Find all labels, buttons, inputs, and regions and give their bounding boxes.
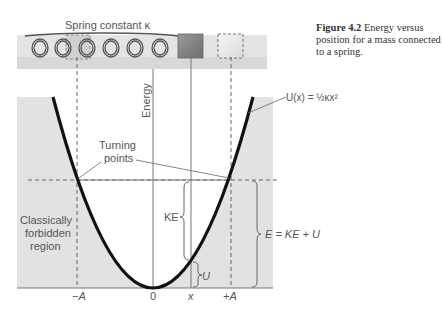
turning-points-label-2: points [104,152,134,164]
spring-apparatus: Spring constant κ [17,19,267,69]
energy-axis-label: Energy [140,83,152,118]
u-label: U [202,270,210,282]
ke-label: KE [164,211,179,223]
potential-label: U(x) = ½κx² [286,92,339,103]
total-energy-label: E = KE + U [265,228,320,240]
turning-points-label-1: Turning [99,139,136,151]
forbidden-label-1: Classically [20,214,72,226]
tick-x: x [187,290,194,302]
spring-constant-label: Spring constant κ [65,19,150,31]
track-rail [17,57,267,69]
mass-block [178,34,203,58]
forbidden-label-2: forbidden [25,227,71,239]
forbidden-label-3: region [30,240,61,252]
tick-plus-a: +A [223,290,237,302]
plot-area [17,97,273,288]
caption-label: Figure 4.2 [316,22,361,33]
tick-minus-a: −A [72,290,86,302]
figure-caption: Figure 4.2 Energy versus position for a … [316,22,441,58]
mass-max-position [218,34,243,58]
tick-zero: 0 [150,290,156,302]
